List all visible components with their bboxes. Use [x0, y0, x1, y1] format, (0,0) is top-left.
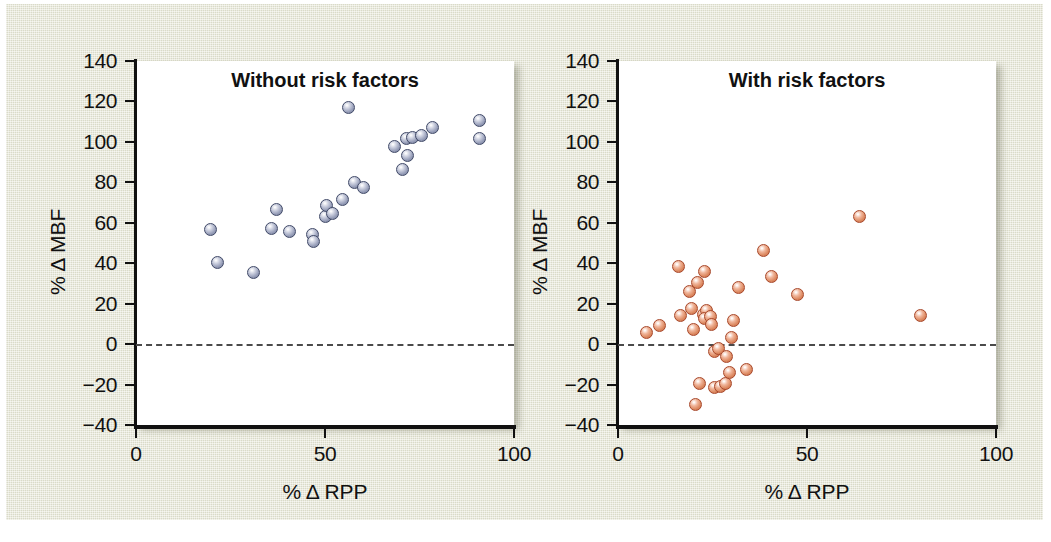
y-axis-line-right [616, 59, 619, 427]
y-axis-tick-label-right: 100 [537, 131, 599, 152]
data-point [757, 244, 770, 257]
y-axis-tick-label-left: 20 [55, 293, 117, 314]
y-axis-tick-left [125, 384, 134, 386]
y-axis-tick-right [607, 60, 616, 62]
y-axis-tick-label-right: 140 [537, 50, 599, 71]
y-axis-tick-right [607, 222, 616, 224]
y-axis-tick-left [125, 181, 134, 183]
zero-reference-line-right [618, 344, 996, 346]
data-point [691, 276, 704, 289]
y-axis-tick-label-right: −20 [537, 374, 599, 395]
data-point [723, 366, 736, 379]
data-point [396, 163, 409, 176]
data-point [357, 181, 370, 194]
x-axis-tick-right [806, 429, 808, 438]
x-axis-tick-label-right: 0 [588, 443, 648, 464]
plot-area-left [136, 61, 514, 425]
data-point [740, 363, 753, 376]
y-axis-tick-left [125, 222, 134, 224]
y-axis-tick-label-right: 0 [537, 333, 599, 354]
y-axis-tick-label-left: 0 [55, 333, 117, 354]
data-point [247, 266, 260, 279]
y-axis-tick-label-left: 120 [55, 90, 117, 111]
data-point [265, 222, 278, 235]
y-axis-tick-label-left: 140 [55, 50, 117, 71]
y-axis-tick-label-left: 60 [55, 212, 117, 233]
data-point [765, 270, 778, 283]
y-axis-tick-right [607, 343, 616, 345]
y-axis-tick-label-right: −40 [537, 414, 599, 435]
y-axis-tick-left [125, 424, 134, 426]
y-axis-tick-label-left: 100 [55, 131, 117, 152]
panel-title-left: Without risk factors [136, 69, 514, 92]
zero-reference-line-left [136, 344, 514, 346]
y-axis-tick-right [607, 141, 616, 143]
y-axis-tick-left [125, 141, 134, 143]
y-axis-tick-right [607, 100, 616, 102]
y-axis-tick-left [125, 343, 134, 345]
data-point [336, 193, 349, 206]
y-axis-tick-label-left: −20 [55, 374, 117, 395]
x-axis-tick-label-right: 100 [966, 443, 1026, 464]
y-axis-tick-left [125, 100, 134, 102]
x-axis-title-left: % Δ RPP [136, 480, 514, 504]
panel-title-right: With risk factors [618, 69, 996, 92]
y-axis-tick-label-left: 80 [55, 171, 117, 192]
x-axis-tick-left [324, 429, 326, 438]
y-axis-line-left [134, 59, 137, 427]
y-axis-tick-left [125, 303, 134, 305]
data-point [401, 149, 414, 162]
x-axis-tick-left [135, 429, 137, 438]
data-point [725, 331, 738, 344]
data-point [698, 265, 711, 278]
y-axis-tick-label-left: −40 [55, 414, 117, 435]
x-axis-tick-label-left: 0 [106, 443, 166, 464]
x-axis-tick-right [617, 429, 619, 438]
y-axis-tick-label-right: 80 [537, 171, 599, 192]
y-axis-tick-left [125, 60, 134, 62]
data-point [211, 256, 224, 269]
x-axis-title-right: % Δ RPP [618, 480, 996, 504]
data-point [326, 207, 339, 220]
data-point [283, 225, 296, 238]
data-point [473, 114, 486, 127]
y-axis-tick-label-right: 20 [537, 293, 599, 314]
y-axis-tick-label-left: 40 [55, 252, 117, 273]
y-axis-tick-right [607, 424, 616, 426]
y-axis-tick-left [125, 262, 134, 264]
plot-area-right [618, 61, 996, 425]
y-axis-tick-label-right: 60 [537, 212, 599, 233]
figure-container: Without risk factors % Δ MBF % Δ RPP 140… [6, 4, 1043, 520]
y-axis-tick-right [607, 303, 616, 305]
x-axis-tick-right [995, 429, 997, 438]
panel-without-risk-factors: Without risk factors % Δ MBF % Δ RPP 140… [6, 4, 526, 520]
y-axis-tick-right [607, 262, 616, 264]
y-axis-tick-label-right: 40 [537, 252, 599, 273]
panel-with-risk-factors: With risk factors % Δ MBF % Δ RPP 140120… [488, 4, 1043, 520]
y-axis-tick-right [607, 181, 616, 183]
data-point [693, 377, 706, 390]
y-axis-tick-right [607, 384, 616, 386]
x-axis-tick-label-left: 50 [295, 443, 355, 464]
x-axis-tick-label-right: 50 [777, 443, 837, 464]
y-axis-tick-label-right: 120 [537, 90, 599, 111]
